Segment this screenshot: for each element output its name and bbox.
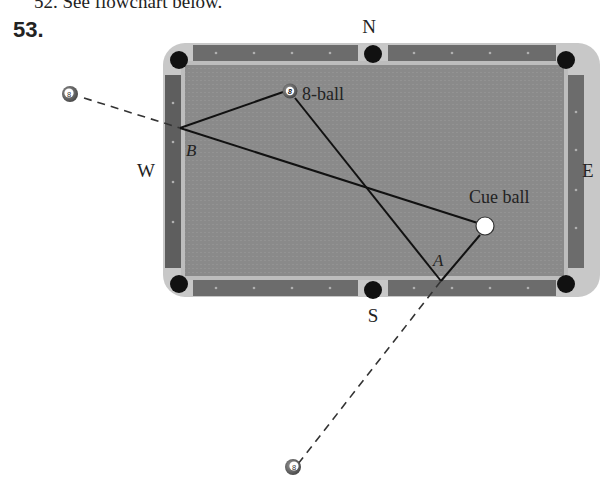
eight-ball-reflection-west: 8 bbox=[62, 86, 78, 102]
pocket-sw bbox=[170, 275, 188, 293]
rail-south-left bbox=[193, 280, 358, 296]
pocket-se bbox=[557, 275, 575, 293]
cue-ball-label: Cue ball bbox=[469, 187, 530, 207]
cue-ball bbox=[476, 217, 494, 235]
eight-ball-label: 8-ball bbox=[302, 84, 344, 104]
point-b-label: B bbox=[186, 141, 197, 160]
pool-table-diagram: 8 8 8 N S W E 8-ball Cue ball A B bbox=[0, 0, 611, 494]
svg-text:8: 8 bbox=[288, 88, 292, 95]
pocket-s bbox=[364, 281, 382, 299]
eight-ball-reflection-south: 8 bbox=[285, 459, 301, 475]
rail-north-left bbox=[193, 45, 358, 61]
svg-text:8: 8 bbox=[292, 463, 296, 472]
eight-ball-on-table: 8 bbox=[283, 84, 298, 99]
north-label: N bbox=[362, 16, 376, 37]
pocket-ne bbox=[557, 51, 575, 69]
pool-table bbox=[163, 43, 600, 299]
felt bbox=[185, 65, 564, 276]
south-label: S bbox=[368, 305, 379, 326]
pocket-nw bbox=[170, 51, 188, 69]
east-label: E bbox=[582, 160, 594, 181]
svg-text:8: 8 bbox=[67, 90, 71, 99]
pocket-n bbox=[364, 45, 382, 63]
point-a-label: A bbox=[432, 251, 444, 270]
west-label: W bbox=[137, 160, 155, 181]
